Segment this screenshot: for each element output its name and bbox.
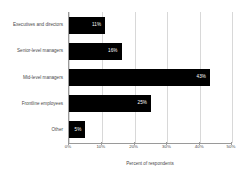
bar: 11% [69, 17, 105, 34]
category-label: Frontline employees [0, 96, 66, 113]
bar-row: 5% [69, 121, 232, 138]
bar-chart: Executives and directors Senior-level ma… [0, 0, 242, 176]
bar: 43% [69, 69, 210, 86]
x-tick-label: 10% [96, 145, 105, 149]
x-tick-label: 50% [227, 145, 236, 149]
x-axis-ticks: 0% 10% 20% 30% 40% 50% [68, 145, 232, 155]
bar-row: 16% [69, 43, 232, 60]
plot-area: 11% 16% 43% 25% 5% [68, 12, 232, 144]
category-axis-labels: Executives and directors Senior-level ma… [0, 12, 66, 144]
x-tick-label: 40% [195, 145, 204, 149]
category-label: Executives and directors [0, 17, 66, 34]
bar: 25% [69, 95, 151, 112]
bar-row: 11% [69, 17, 232, 34]
x-tick-label: 30% [162, 145, 171, 149]
bar-value-label: 25% [138, 101, 152, 106]
category-label: Mid-level managers [0, 69, 66, 86]
bar-value-label: 11% [92, 23, 105, 28]
bar-value-label: 5% [75, 128, 86, 133]
bar-value-label: 43% [197, 75, 211, 80]
bar: 16% [69, 43, 122, 60]
bar-row: 25% [69, 95, 232, 112]
bar: 5% [69, 121, 85, 138]
x-axis-title: Percent of respondents [68, 162, 232, 167]
x-tick-label: 0% [65, 145, 71, 149]
x-tick-label: 20% [129, 145, 138, 149]
category-label: Other [0, 122, 66, 139]
category-label: Senior-level managers [0, 43, 66, 60]
bar-row: 43% [69, 69, 232, 86]
bar-rows: 11% 16% 43% 25% 5% [69, 12, 232, 143]
gridline [232, 12, 233, 143]
bar-value-label: 16% [108, 49, 122, 54]
